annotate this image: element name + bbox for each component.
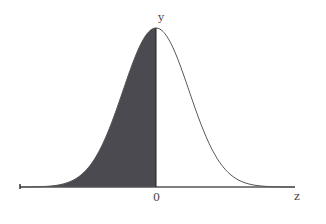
normal-curve-chart bbox=[0, 0, 326, 224]
y-axis-label: y bbox=[158, 12, 164, 23]
shaded-area bbox=[20, 28, 156, 187]
x-axis-label: z bbox=[294, 191, 300, 202]
bell-curve bbox=[20, 28, 295, 187]
origin-tick-label: 0 bbox=[153, 192, 160, 203]
